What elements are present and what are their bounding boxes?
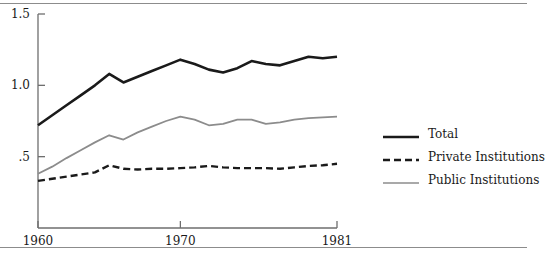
legend-item: Public Institutions (383, 168, 523, 191)
x-axis-ticks (38, 221, 337, 228)
legend-item-label: Public Institutions (428, 174, 539, 186)
x-axis-tick-label: 1970 (155, 235, 205, 247)
legend-item-label: Private Institutions (428, 151, 545, 163)
legend-line-swatch (383, 151, 419, 163)
y-axis-tick-label: .5 (0, 151, 30, 163)
legend-line-swatch (383, 128, 419, 140)
series-line-total (38, 57, 337, 125)
x-axis-tick-label: 1960 (13, 235, 63, 247)
x-axis-tick-label: 1981 (312, 235, 362, 247)
series-line-public-institutions (38, 117, 337, 174)
legend-item: Private Institutions (383, 145, 523, 168)
axes (38, 14, 337, 228)
series-line-private-institutions (38, 164, 337, 181)
y-axis-tick-label: 1.5 (0, 8, 30, 20)
chart-legend: TotalPrivate InstitutionsPublic Institut… (383, 122, 523, 191)
data-series-group (38, 57, 337, 181)
legend-item: Total (383, 122, 523, 145)
y-axis-tick-label: 1.0 (0, 79, 30, 91)
legend-line-swatch (383, 174, 419, 186)
legend-item-label: Total (428, 128, 458, 140)
y-axis-ticks (38, 14, 45, 157)
